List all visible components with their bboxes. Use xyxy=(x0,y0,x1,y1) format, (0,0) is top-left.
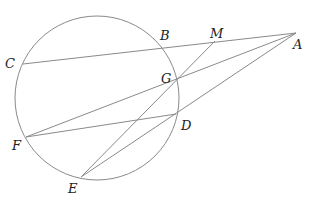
segment-FD xyxy=(26,114,176,137)
label-F: F xyxy=(11,138,22,153)
segment-ME xyxy=(81,41,215,177)
label-D: D xyxy=(180,118,192,133)
label-C: C xyxy=(5,56,15,71)
label-A: A xyxy=(292,37,302,52)
label-B: B xyxy=(159,28,170,43)
circle xyxy=(15,16,179,180)
label-M: M xyxy=(209,26,224,41)
label-G: G xyxy=(161,71,171,86)
geometry-diagram: C B M A G D F E xyxy=(0,0,315,203)
label-E: E xyxy=(67,181,78,196)
segment-EA xyxy=(81,33,296,177)
